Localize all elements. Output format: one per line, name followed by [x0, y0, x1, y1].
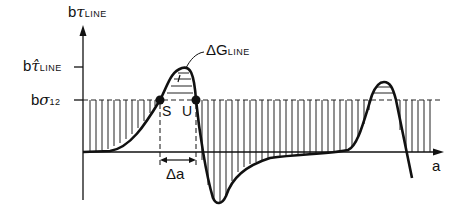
energy-label: ΔGLINE	[206, 42, 250, 57]
energy-leader	[186, 52, 204, 68]
sigma-sub: 12	[50, 97, 61, 107]
energy-sub: LINE	[228, 47, 250, 57]
unstable-point-label: U	[182, 104, 192, 118]
y-axis-sub: LINE	[85, 9, 107, 19]
sigma-label: bσ12	[31, 92, 61, 108]
tau-hat-symbol: τ̂	[31, 57, 39, 75]
delta-a-arrow-icon	[160, 157, 196, 163]
stress-curve	[83, 68, 412, 203]
unstable-point-marker	[192, 96, 201, 105]
hatch-lines	[90, 100, 430, 202]
tau-hat-sub: LINE	[40, 63, 62, 73]
x-axis-arrow-icon	[433, 149, 444, 156]
x-axis-label: a	[432, 158, 440, 173]
tau-hat-label: bτ̂LINE	[23, 58, 62, 74]
y-axis-arrow-icon	[80, 25, 87, 36]
sigma-symbol: σ	[39, 91, 49, 109]
y-axis-symbol: τ	[76, 3, 84, 21]
y-axis-label: bτLINE	[68, 4, 107, 20]
energy-symbol: ΔG	[206, 41, 228, 58]
stable-point-label: S	[162, 104, 171, 118]
diagram-canvas	[0, 0, 465, 216]
delta-a-label: Δa	[166, 166, 184, 181]
energy-hatch	[167, 73, 393, 93]
